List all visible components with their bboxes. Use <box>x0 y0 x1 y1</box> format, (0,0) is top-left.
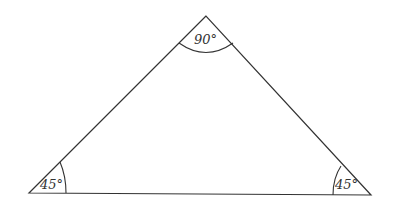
triangle-svg: 90° 45° 45° <box>0 0 394 212</box>
right-angle-label: 45° <box>334 177 358 192</box>
triangle-diagram: 90° 45° 45° <box>0 0 394 212</box>
apex-angle-label: 90° <box>194 32 217 47</box>
left-angle-label: 45° <box>39 177 63 192</box>
